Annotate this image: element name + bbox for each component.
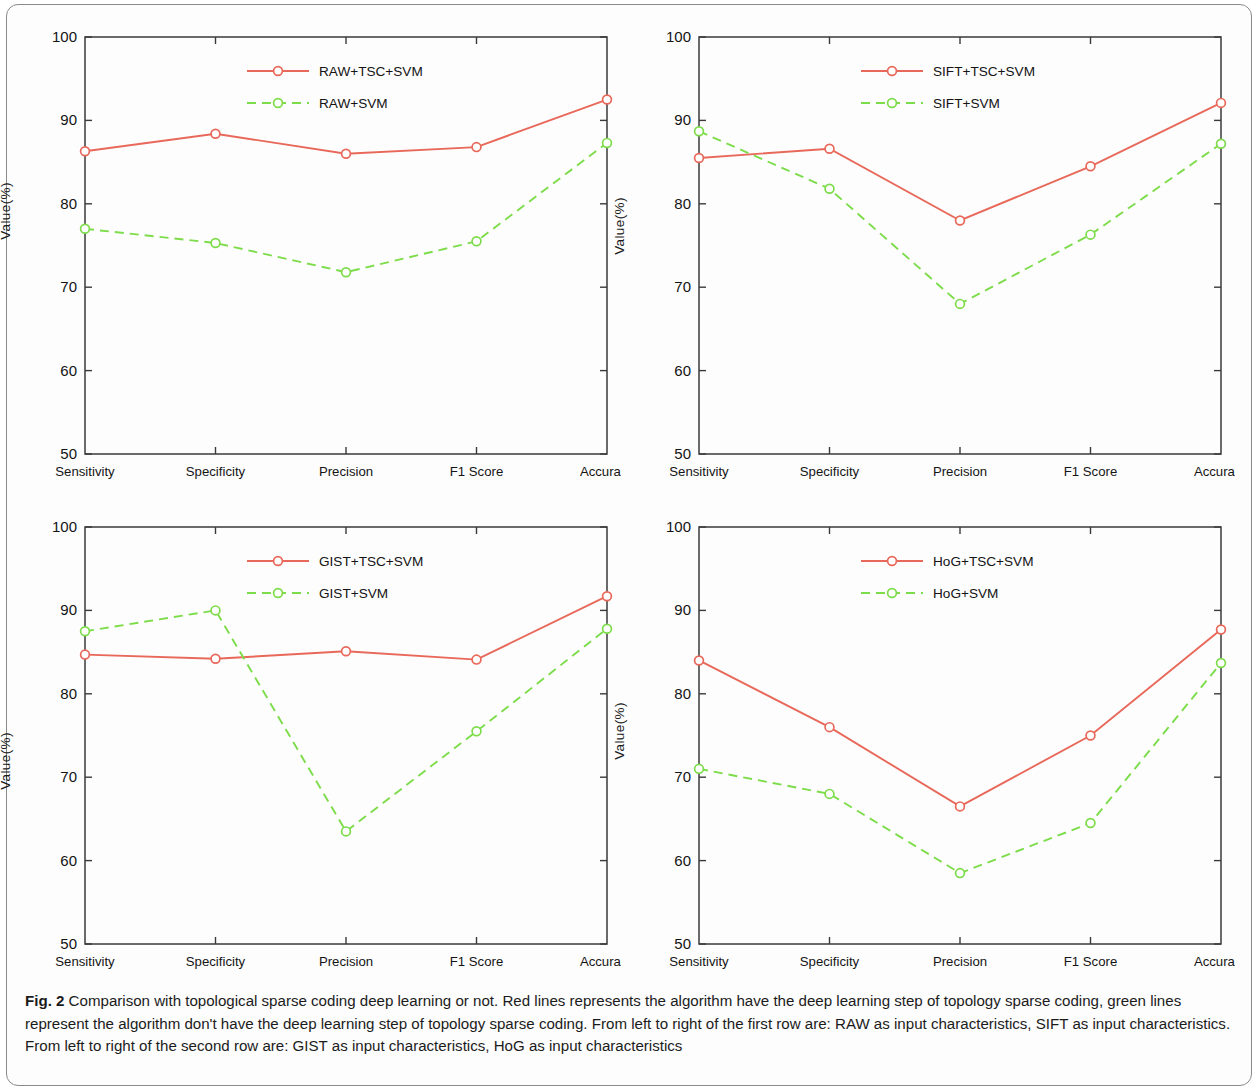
chart-panel-sift: Value(%) 1009080706050SensitivitySpecifi…: [635, 11, 1235, 496]
x-tick-label: Precision: [319, 464, 373, 479]
x-tick-label: F1 Score: [450, 954, 504, 969]
y-axis-label: Value(%): [612, 702, 627, 760]
y-axis-label: Value(%): [612, 197, 627, 255]
data-point-marker: [695, 127, 704, 136]
legend-marker-icon: [274, 99, 283, 108]
data-point-marker: [956, 802, 965, 811]
data-point-marker: [81, 650, 90, 659]
x-tick-label: Accuracy: [1194, 464, 1235, 479]
data-point-marker: [825, 144, 834, 153]
y-tick-label: 90: [60, 111, 77, 128]
y-axis-label: Value(%): [0, 182, 13, 240]
y-tick-label: 80: [60, 195, 77, 212]
data-point-marker: [1086, 819, 1095, 828]
chart-canvas-gist: 1009080706050SensitivitySpecificityPreci…: [21, 501, 621, 986]
y-tick-label: 80: [674, 195, 691, 212]
legend-label: SIFT+SVM: [933, 96, 1000, 111]
y-tick-label: 50: [60, 445, 77, 462]
x-tick-label: F1 Score: [1064, 954, 1118, 969]
x-tick-label: Specificity: [800, 954, 860, 969]
y-tick-label: 100: [52, 28, 77, 45]
series-line: [699, 630, 1221, 807]
data-point-marker: [695, 764, 704, 773]
legend-marker-icon: [888, 557, 897, 566]
y-tick-label: 100: [666, 518, 691, 535]
x-tick-label: Specificity: [186, 954, 246, 969]
y-tick-label: 50: [674, 445, 691, 462]
legend-label: SIFT+TSC+SVM: [933, 64, 1035, 79]
x-tick-label: Precision: [933, 954, 987, 969]
series-line: [85, 143, 607, 272]
y-tick-label: 90: [674, 601, 691, 618]
figure-frame: Value(%) 1009080706050SensitivitySpecifi…: [6, 4, 1252, 1086]
legend-label: RAW+SVM: [319, 96, 388, 111]
data-point-marker: [1217, 139, 1226, 148]
data-point-marker: [81, 627, 90, 636]
legend-label: GIST+SVM: [319, 586, 388, 601]
legend-marker-icon: [888, 589, 897, 598]
data-point-marker: [1086, 230, 1095, 239]
y-axis-label: Value(%): [0, 732, 13, 790]
legend-label: GIST+TSC+SVM: [319, 554, 423, 569]
data-point-marker: [1217, 625, 1226, 634]
data-point-marker: [472, 727, 481, 736]
y-tick-label: 70: [60, 768, 77, 785]
data-point-marker: [956, 216, 965, 225]
x-tick-label: Sensitivity: [669, 464, 729, 479]
data-point-marker: [211, 239, 220, 248]
data-point-marker: [695, 656, 704, 665]
data-point-marker: [1086, 731, 1095, 740]
x-tick-label: Sensitivity: [55, 464, 115, 479]
y-tick-label: 60: [60, 852, 77, 869]
legend-label: RAW+TSC+SVM: [319, 64, 423, 79]
data-point-marker: [1217, 98, 1226, 107]
y-tick-label: 70: [60, 278, 77, 295]
y-tick-label: 70: [674, 768, 691, 785]
x-tick-label: F1 Score: [1064, 464, 1118, 479]
data-point-marker: [825, 789, 834, 798]
legend-label: HoG+TSC+SVM: [933, 554, 1033, 569]
data-point-marker: [472, 143, 481, 152]
y-tick-label: 80: [60, 685, 77, 702]
legend-label: HoG+SVM: [933, 586, 998, 601]
series-line: [699, 103, 1221, 221]
legend-marker-icon: [274, 67, 283, 76]
y-tick-label: 60: [60, 362, 77, 379]
data-point-marker: [1086, 162, 1095, 171]
legend-marker-icon: [274, 557, 283, 566]
figure-caption: Fig. 2 Comparison with topological spars…: [25, 990, 1237, 1058]
data-point-marker: [342, 268, 351, 277]
y-tick-label: 70: [674, 278, 691, 295]
data-point-marker: [81, 224, 90, 233]
chart-canvas-hog: 1009080706050SensitivitySpecificityPreci…: [635, 501, 1235, 986]
x-tick-label: Accuracy: [580, 464, 621, 479]
data-point-marker: [342, 149, 351, 158]
x-tick-label: Sensitivity: [55, 954, 115, 969]
series-line: [85, 610, 607, 831]
x-tick-label: Accuracy: [1194, 954, 1235, 969]
chart-grid: Value(%) 1009080706050SensitivitySpecifi…: [7, 5, 1253, 980]
x-tick-label: Accuracy: [580, 954, 621, 969]
y-tick-label: 100: [666, 28, 691, 45]
data-point-marker: [342, 827, 351, 836]
x-tick-label: Specificity: [800, 464, 860, 479]
legend-marker-icon: [888, 67, 897, 76]
legend-marker-icon: [888, 99, 897, 108]
data-point-marker: [603, 592, 612, 601]
data-point-marker: [603, 139, 612, 148]
data-point-marker: [603, 624, 612, 633]
data-point-marker: [825, 184, 834, 193]
data-point-marker: [472, 237, 481, 246]
data-point-marker: [211, 654, 220, 663]
data-point-marker: [1217, 659, 1226, 668]
legend-marker-icon: [274, 589, 283, 598]
figure-label: Fig. 2: [25, 992, 64, 1009]
data-point-marker: [342, 647, 351, 656]
x-tick-label: Precision: [933, 464, 987, 479]
data-point-marker: [81, 147, 90, 156]
y-tick-label: 80: [674, 685, 691, 702]
caption-text: Comparison with topological sparse codin…: [25, 992, 1230, 1054]
data-point-marker: [956, 299, 965, 308]
x-tick-label: F1 Score: [450, 464, 504, 479]
data-point-marker: [695, 154, 704, 163]
